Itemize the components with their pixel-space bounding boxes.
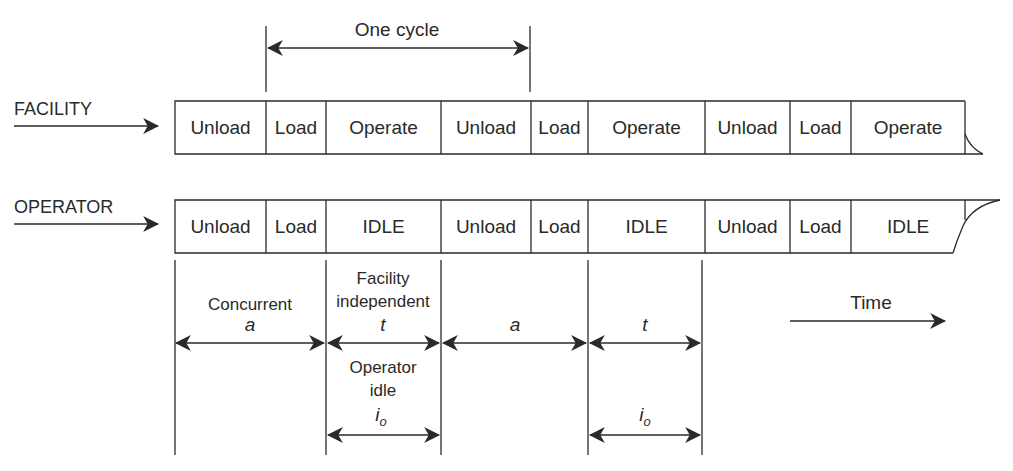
operator-idle-label-line2: idle [370,380,396,402]
operator-segment: Load [790,200,851,253]
facility-segment: Load [266,101,326,154]
time-label: Time [850,292,892,314]
second-concurrent-symbol: a [510,314,521,336]
operator-segment: IDLE [588,200,705,253]
facility-segment: Load [790,101,851,154]
facility-independent-label-line1: Facility [357,268,410,290]
facility-independent-label-line2: independent [336,291,430,313]
facility-segment: Operate [851,101,965,154]
second-independent-symbol: t [642,314,647,336]
operator-segment: Unload [175,200,266,253]
operator-segment: Unload [705,200,790,253]
second-operator-idle-symbol: io [639,404,650,429]
operator-label: OPERATOR [14,197,113,218]
facility-segment: Unload [175,101,266,154]
one-cycle-label: One cycle [355,19,439,41]
concurrent-label: Concurrent [208,294,292,316]
operator-segment: IDLE [851,200,965,253]
operator-segment: Unload [441,200,531,253]
operator-idle-symbol: io [375,404,386,429]
operator-segment: Load [531,200,588,253]
facility-segment: Operate [588,101,705,154]
facility-segment: Load [531,101,588,154]
operator-idle-label-line1: Operator [349,357,416,379]
facility-independent-symbol: t [380,314,385,336]
operator-segment: IDLE [326,200,441,253]
operator-segment: Load [266,200,326,253]
facility-label: FACILITY [14,99,92,120]
facility-segment: Unload [705,101,790,154]
dimension-extension-lines [175,260,702,455]
facility-segment: Unload [441,101,531,154]
concurrent-symbol: a [245,314,256,336]
facility-segment: Operate [326,101,441,154]
